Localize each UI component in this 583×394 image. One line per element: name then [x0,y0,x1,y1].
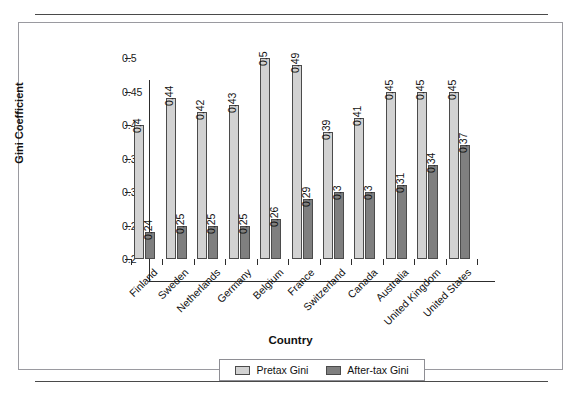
bottom-divider-rule [35,381,548,382]
bar-value-label: 0.29 [300,186,312,206]
bar-value-label: 0.44 [163,86,175,106]
bar-pretax [449,92,459,260]
bar-pretax [197,112,207,259]
legend-label-aftertax: After-tax Gini [347,364,408,376]
bar-pretax [260,58,270,259]
bar-value-label: 0.34 [425,153,437,173]
x-axis-tick [257,259,258,265]
x-axis-tick [194,259,195,265]
bar-value-label: 0.3 [331,185,343,200]
bar-value-label: 0.39 [320,119,332,139]
bar-value-label: 0.26 [268,206,280,226]
legend-swatch-pretax-icon [235,366,250,375]
bar-value-label: 0.25 [237,213,249,233]
x-axis-tick [225,259,226,265]
bar-aftertax [365,192,375,259]
x-axis-tick [288,259,289,265]
bar-pretax [166,98,176,259]
bar-pretax [417,92,427,260]
bar-pretax [229,105,239,259]
bar-value-label: 0.37 [457,133,469,153]
bar-value-label: 0.45 [383,79,395,99]
bar-value-label: 0.3 [362,185,374,200]
x-axis-tick [351,259,352,265]
x-axis-tick [414,259,415,265]
legend-label-pretax: Pretax Gini [256,364,308,376]
legend-item-aftertax: After-tax Gini [326,364,408,376]
x-axis-tick [383,259,384,265]
legend-swatch-aftertax-icon [326,366,341,375]
figure-container: 0.20.250.30.350.40.450.5 Gini Coefficien… [0,0,583,394]
x-axis-tick [131,259,132,265]
bar-pretax [292,65,302,259]
x-axis-tick [320,259,321,265]
bar-aftertax [460,145,470,259]
bar-value-label: 0.49 [289,52,301,72]
top-divider-rule [35,14,548,15]
bar-value-label: 0.45 [446,79,458,99]
bar-value-label: 0.45 [414,79,426,99]
bar-value-label: 0.5 [257,51,269,66]
x-axis-tick [446,259,447,265]
chart-frame: 0.20.250.30.350.40.450.5 Gini Coefficien… [18,22,563,370]
bar-aftertax [303,199,313,259]
y-axis-title: Gini Coefficient [13,82,25,163]
bar-aftertax [428,165,438,259]
bar-value-label: 0.43 [226,92,238,112]
x-axis-title: Country [19,334,562,346]
bar-value-label: 0.25 [174,213,186,233]
bar-aftertax [397,185,407,259]
x-axis-category-label: Finland [126,266,159,299]
chart-legend: Pretax Gini After-tax Gini [219,359,425,381]
bar-value-label: 0.42 [194,99,206,119]
bar-value-label: 0.31 [394,173,406,193]
x-axis-tick [477,259,478,265]
bar-value-label: 0.41 [351,106,363,126]
bar-aftertax [334,192,344,259]
legend-item-pretax: Pretax Gini [235,364,308,376]
x-axis-tick [162,259,163,265]
bar-value-label: 0.4 [131,118,143,133]
bar-value-label: 0.24 [142,220,154,240]
bar-value-label: 0.25 [205,213,217,233]
